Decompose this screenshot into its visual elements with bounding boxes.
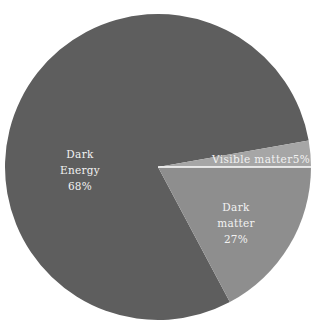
label-dark-matter-pct: 27% — [196, 231, 276, 247]
label-visible-matter: Visible matter5% — [212, 153, 310, 165]
label-visible-matter-pct: 5% — [293, 153, 310, 165]
label-dark-energy-line1: Dark — [40, 146, 120, 162]
label-dark-energy-line2: Energy — [40, 162, 120, 178]
label-dark-energy-pct: 68% — [40, 178, 120, 194]
label-dark-matter-line2: matter — [196, 215, 276, 231]
label-dark-matter: Dark matter 27% — [196, 199, 276, 247]
label-dark-matter-line1: Dark — [196, 199, 276, 215]
label-dark-energy: Dark Energy 68% — [40, 146, 120, 194]
label-visible-matter-text: Visible matter — [212, 153, 293, 165]
